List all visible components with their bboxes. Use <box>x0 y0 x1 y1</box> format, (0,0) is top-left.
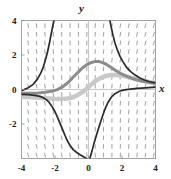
y-axis-label: y <box>79 3 84 14</box>
y-tick-label: 2 <box>2 51 17 60</box>
plot-canvas <box>0 0 171 179</box>
x-axis-label: x <box>159 83 165 94</box>
x-tick-label: 2 <box>120 164 125 173</box>
x-tick-label: 4 <box>153 164 158 173</box>
x-tick-label: 0 <box>86 164 91 173</box>
y-tick-label: 4 <box>2 16 17 25</box>
slope-field-figure: y x -4-2024 420-2 <box>0 0 171 179</box>
y-tick-label: 0 <box>2 85 17 94</box>
y-tick-label: -2 <box>2 120 17 129</box>
x-tick-label: -4 <box>18 164 26 173</box>
x-tick-label: -2 <box>51 164 59 173</box>
